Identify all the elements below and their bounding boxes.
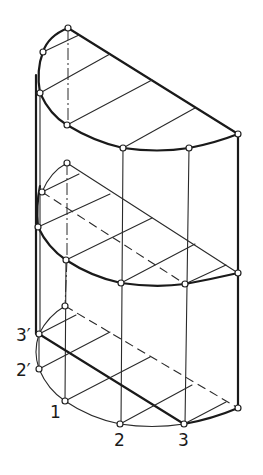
label-1: 1 [50,402,61,422]
middle-face [37,163,238,286]
top-face [39,28,238,151]
label-2-prime: 2′ [16,360,31,380]
bottom-face [36,306,238,427]
construction-points [35,25,241,427]
label-3-prime: 3′ [16,325,31,345]
label-2: 2 [114,430,125,450]
label-3: 3 [178,430,189,450]
isometric-drawing: 3′ 2′ 1 2 3 [0,0,263,475]
